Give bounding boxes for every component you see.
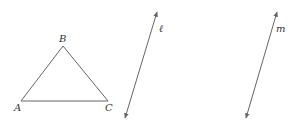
geometry-diagram: A B C ℓ m xyxy=(0,0,301,129)
vertex-label-c: C xyxy=(105,102,113,113)
vertex-label-b: B xyxy=(58,33,66,44)
line-label-m: m xyxy=(276,23,285,34)
line-label-l: ℓ xyxy=(159,23,163,34)
diagram-svg: A B C ℓ m xyxy=(0,0,301,129)
line-m xyxy=(246,12,277,118)
vertex-label-a: A xyxy=(13,102,21,113)
triangle-abc xyxy=(21,46,108,101)
line-l xyxy=(125,12,157,118)
